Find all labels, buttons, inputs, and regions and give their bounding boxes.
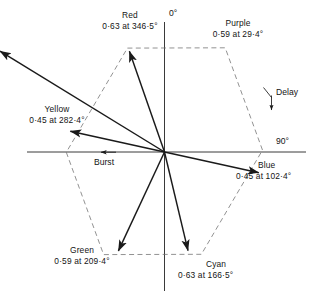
vector-label-cyan-name: Cyan [178, 259, 278, 270]
vector-purple [0, 51, 165, 152]
vector-label-yellow: Yellow 0·45 at 282·4° [9, 104, 105, 125]
vector-label-red: Red 0·63 at 346·5° [86, 10, 174, 31]
vector-label-red-value: 0·63 at 346·5° [86, 21, 174, 32]
vector-label-blue-name: Blue [236, 160, 316, 171]
vector-yellow [70, 131, 164, 152]
vector-label-green: Green 0·59 at 209·4° [32, 245, 132, 266]
vector-label-blue: Blue 0·45 at 102·4° [236, 160, 316, 181]
vector-group [0, 51, 259, 251]
vector-label-purple: Purple 0·59 at 29·4° [190, 18, 286, 39]
vector-red [129, 51, 164, 152]
vector-label-red-name: Red [86, 10, 174, 21]
vector-label-purple-name: Purple [190, 18, 286, 29]
delay-label: Delay [276, 87, 298, 97]
vector-diagram-figure: 0° 90° Delay Burst Red 0·63 at 346·5° Pu… [0, 0, 317, 296]
vector-label-green-value: 0·59 at 209·4° [32, 256, 132, 267]
vector-label-cyan-value: 0·63 at 166·5° [178, 270, 278, 281]
burst-label: Burst [94, 157, 114, 167]
vector-label-yellow-name: Yellow [9, 104, 105, 115]
delay-arrow-icon [264, 88, 272, 111]
vector-label-cyan: Cyan 0·63 at 166·5° [178, 259, 278, 280]
vector-label-yellow-value: 0·45 at 282·4° [9, 115, 105, 126]
vector-label-blue-value: 0·45 at 102·4° [236, 171, 316, 182]
vector-label-purple-value: 0·59 at 29·4° [190, 29, 286, 40]
axis-label-ninety-degrees: 90° [276, 136, 289, 146]
vector-label-green-name: Green [32, 245, 132, 256]
vector-cyan [165, 152, 189, 251]
vector-green [118, 152, 164, 251]
